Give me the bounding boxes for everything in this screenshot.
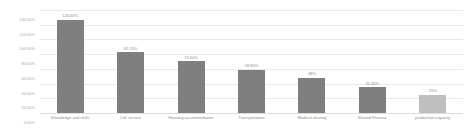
bar-value-label: 126.60% [62,14,78,18]
y-axis-tick-label: 0.00% [24,121,35,125]
bar-slot: 70.60% [161,10,221,113]
bar[interactable]: 70.60% [178,61,205,113]
bar[interactable]: 48% [298,78,325,113]
bar[interactable]: 126.60% [57,20,84,113]
y-axis-tick-label: 60.00% [22,77,36,81]
x-axis-category-label: Shared Finance [342,116,402,130]
x-axis-category-label: Life service [100,116,160,130]
bar-value-label: 48% [308,72,316,76]
bar-slot: 35.30% [342,10,402,113]
bar-slot: 25% [403,10,463,113]
x-axis-category-label: Housing accommodation [161,116,221,130]
plot-area: 126.60%82.70%70.60%58.80%48%35.30%25% [40,10,463,113]
x-axis-category-label: production capacity [403,116,463,130]
bar-chart: 140.00%120.00%100.00%80.00%60.00%40.00%2… [0,0,471,135]
y-axis-tick-label: 40.00% [22,92,36,96]
bar[interactable]: 25% [419,95,446,113]
bar-value-label: 58.80% [245,64,259,68]
x-axis-category-label: Medical sharing [282,116,342,130]
bar-slot: 82.70% [100,10,160,113]
bar-value-label: 70.60% [184,56,198,60]
x-axis-category-label: Knowledge and skills [40,116,100,130]
y-axis-tick-label: 100.00% [19,47,35,51]
y-axis-tick-label: 80.00% [22,62,36,66]
bar-value-label: 35.30% [366,82,380,86]
bar-value-label: 82.70% [124,47,138,51]
bar[interactable]: 82.70% [117,52,144,113]
bar-slot: 48% [282,10,342,113]
bar-slot: 126.60% [40,10,100,113]
bar-slot: 58.80% [221,10,281,113]
bar-series: 126.60%82.70%70.60%58.80%48%35.30%25% [40,10,463,113]
y-axis-tick-label: 140.00% [19,18,35,22]
bar[interactable]: 35.30% [359,87,386,113]
gridline [40,113,463,114]
x-axis: Knowledge and skillsLife serviceHousing … [40,116,463,130]
x-axis-category-label: Transportation [221,116,281,130]
y-axis-tick-label: 120.00% [19,33,35,37]
y-axis-tick-label: 20.00% [22,106,36,110]
y-axis: 140.00%120.00%100.00%80.00%60.00%40.00%2… [0,10,38,113]
bar[interactable]: 58.80% [238,70,265,113]
bar-value-label: 25% [429,89,437,93]
